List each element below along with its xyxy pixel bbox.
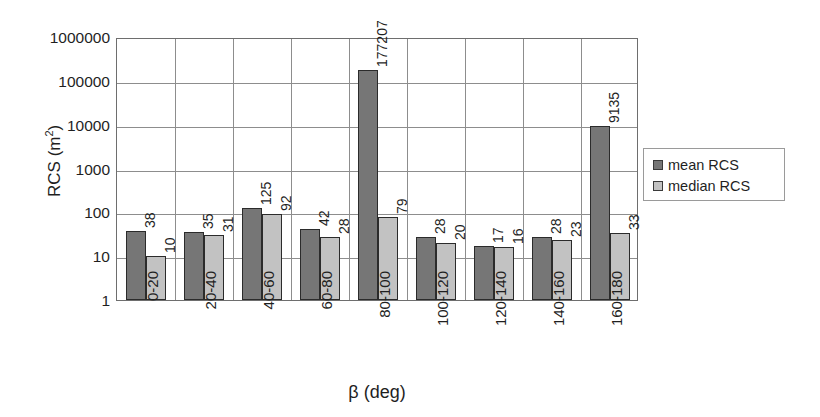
bar-value-label: 38 bbox=[143, 212, 157, 228]
y-axis-tick-label: 1 bbox=[0, 292, 110, 310]
legend-label-median: median RCS bbox=[668, 178, 750, 194]
bar-value-label: 20 bbox=[453, 224, 467, 240]
x-axis-tick-label: 0-20 bbox=[116, 306, 174, 376]
gridline-vertical bbox=[233, 39, 234, 300]
y-axis-title-text: RCS (m bbox=[45, 137, 64, 197]
x-axis-tick-label-text: 80-100 bbox=[377, 271, 392, 341]
bar-value-label: 10 bbox=[163, 238, 177, 254]
chart-legend: mean RCS median RCS bbox=[643, 148, 785, 201]
x-axis-tick-label-text: 0-20 bbox=[145, 271, 160, 341]
gridline-vertical bbox=[349, 39, 350, 300]
legend-item-mean[interactable]: mean RCS bbox=[653, 154, 784, 175]
legend-label-mean: mean RCS bbox=[668, 157, 739, 173]
bar-mean[interactable] bbox=[532, 237, 552, 300]
x-axis-tick-label: 80-100 bbox=[348, 306, 406, 376]
gridline-vertical bbox=[407, 39, 408, 300]
x-axis-tick-label: 60-80 bbox=[290, 306, 348, 376]
y-axis-title: RCS (m2) bbox=[43, 71, 65, 251]
y-axis-title-exponent: 2 bbox=[43, 130, 55, 136]
legend-swatch-mean bbox=[653, 160, 663, 170]
gridline-vertical bbox=[465, 39, 466, 300]
bar-mean[interactable] bbox=[474, 246, 494, 300]
bar-value-label: 33 bbox=[627, 215, 641, 231]
bar-value-label: 79 bbox=[395, 198, 409, 214]
bar-mean[interactable] bbox=[184, 232, 204, 300]
bar-mean[interactable] bbox=[126, 231, 146, 300]
x-axis-tick-label: 40-60 bbox=[232, 306, 290, 376]
x-axis-tick-label-text: 160-180 bbox=[609, 271, 624, 341]
x-axis-tick-label: 100-120 bbox=[406, 306, 464, 376]
plot-area: 3810353112592422817720779282017162823913… bbox=[116, 38, 638, 301]
bar-mean[interactable] bbox=[358, 70, 378, 300]
bar-mean[interactable] bbox=[416, 237, 436, 300]
y-axis-title-tail: ) bbox=[45, 125, 64, 131]
bar-value-label: 125 bbox=[259, 182, 273, 205]
gridline-vertical bbox=[291, 39, 292, 300]
bar-value-label: 92 bbox=[279, 195, 293, 211]
x-axis-tick-label: 140-160 bbox=[522, 306, 580, 376]
x-axis-tick-label-text: 120-140 bbox=[493, 271, 508, 341]
x-axis-tick-label: 160-180 bbox=[580, 306, 638, 376]
gridline-vertical bbox=[175, 39, 176, 300]
x-axis-tick-label-text: 100-120 bbox=[435, 271, 450, 341]
bar-mean[interactable] bbox=[590, 126, 610, 300]
bar-value-label: 23 bbox=[569, 222, 583, 238]
bar-value-label: 16 bbox=[511, 229, 525, 245]
bar-value-label: 9135 bbox=[607, 92, 621, 123]
rcs-bar-chart: 1000000100000100001000100101 RCS (m2) 38… bbox=[0, 0, 820, 417]
bar-value-label: 31 bbox=[221, 216, 235, 232]
bar-value-label: 17 bbox=[491, 227, 505, 243]
legend-item-median[interactable]: median RCS bbox=[653, 175, 784, 196]
bar-value-label: 28 bbox=[337, 218, 351, 234]
bar-value-label: 177207 bbox=[375, 20, 389, 67]
bar-value-label: 28 bbox=[433, 218, 447, 234]
x-axis-tick-label: 20-40 bbox=[174, 306, 232, 376]
y-axis-tick-label: 1000000 bbox=[0, 29, 110, 47]
gridline-vertical bbox=[523, 39, 524, 300]
legend-swatch-median bbox=[653, 181, 663, 191]
y-axis-tick-label: 10 bbox=[0, 248, 110, 266]
bar-value-label: 42 bbox=[317, 210, 331, 226]
gridline-vertical bbox=[581, 39, 582, 300]
bar-mean[interactable] bbox=[242, 208, 262, 300]
bar-value-label: 35 bbox=[201, 214, 215, 230]
bar-mean[interactable] bbox=[300, 229, 320, 300]
x-axis-tick-label-text: 20-40 bbox=[203, 271, 218, 341]
x-axis-tick-label-text: 40-60 bbox=[261, 271, 276, 341]
x-axis-title: β (deg) bbox=[116, 382, 638, 403]
x-axis-tick-label-text: 60-80 bbox=[319, 271, 334, 341]
x-axis-tick-label: 120-140 bbox=[464, 306, 522, 376]
x-axis-tick-label-text: 140-160 bbox=[551, 271, 566, 341]
bar-value-label: 28 bbox=[549, 218, 563, 234]
